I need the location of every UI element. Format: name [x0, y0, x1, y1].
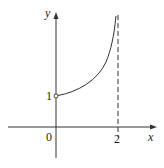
- x-axis-label: x: [147, 130, 154, 144]
- open-point: [54, 94, 58, 98]
- y-axis-label: y: [44, 6, 51, 20]
- y-axis-arrow-icon: [54, 12, 59, 19]
- graph: y 1 0 2 x: [0, 0, 164, 168]
- x-axis-arrow-icon: [150, 125, 157, 130]
- origin-label: 0: [46, 130, 52, 144]
- y-tick-1: 1: [46, 89, 52, 103]
- function-curve: [58, 16, 116, 96]
- x-tick-2: 2: [114, 132, 120, 146]
